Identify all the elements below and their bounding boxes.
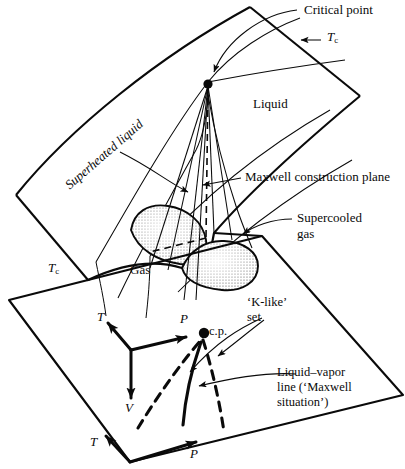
axis-P-upper-arrow: [131, 337, 186, 350]
axis-label-T-lower: T: [90, 435, 97, 450]
critical-point-marker: [203, 79, 212, 88]
label-liquid-vapor-line2: line (‘Maxwell: [277, 380, 352, 394]
label-tc-lower: Tc: [48, 261, 59, 277]
leader-supercooled: [243, 219, 292, 234]
label-cp-marker: c.p.: [209, 324, 227, 338]
label-supercooled-gas-line1: Supercooled: [297, 211, 362, 226]
leader-lines-upper: [120, 10, 321, 234]
label-liquid-vapor-line3: situation’): [277, 395, 328, 409]
leader-superheated: [120, 152, 188, 192]
diagram-canvas: [0, 0, 405, 469]
axis-P-lower-arrow: [130, 442, 196, 462]
tc-lower-subscript: c: [55, 266, 59, 276]
axis-T-upper-arrow: [108, 323, 131, 350]
k-like-set-curves: [138, 340, 224, 432]
axis-label-T-upper: T: [97, 310, 104, 325]
cp-marker-dot: [199, 328, 209, 338]
label-liquid: Liquid: [253, 97, 288, 112]
axis-label-P-upper: P: [180, 312, 188, 327]
label-supercooled-gas-line2: gas: [297, 227, 314, 242]
phase-diagram-figure: Critical point Tc Liquid Superheated liq…: [0, 0, 405, 469]
axis-label-V-upper: V: [125, 401, 133, 416]
k-like-branch-left: [138, 340, 201, 428]
label-critical-point: Critical point: [304, 3, 373, 18]
tc-upper-subscript: c: [334, 35, 338, 45]
axis-triad-upper: [108, 323, 186, 398]
label-k-like-line1: ‘K-like’: [247, 295, 287, 309]
label-tc-upper: Tc: [327, 30, 338, 46]
label-maxwell-construction-plane: Maxwell construction plane: [245, 170, 390, 185]
label-gas: Gas: [130, 263, 150, 278]
axis-label-P-lower: P: [190, 447, 198, 462]
label-k-like-line2: set: [247, 310, 261, 324]
label-liquid-vapor-line1: Liquid–vapor: [277, 365, 345, 379]
liquid-vapor-line-curve: [183, 342, 201, 425]
axis-T-lower-arrow: [106, 436, 130, 462]
